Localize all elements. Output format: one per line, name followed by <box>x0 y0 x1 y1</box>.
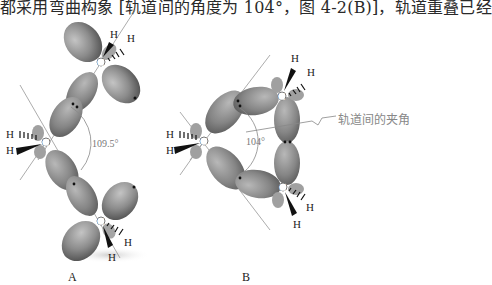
h-label: H <box>124 236 132 248</box>
carbon-label: C <box>200 135 207 147</box>
angle-label-a: 109.5° <box>92 138 119 149</box>
carbon-label: C <box>97 56 104 68</box>
h-label: H <box>291 52 299 64</box>
h-label: H <box>293 218 301 230</box>
panel-b-label: B <box>242 270 250 284</box>
carbon-label: C <box>42 136 49 148</box>
carbon-label: C <box>97 215 104 227</box>
orbital-angle-annotation: 轨道间的夹角 <box>338 112 410 127</box>
panel-b-molecule: 104° 轨道间的夹角 H H H H <box>166 52 410 230</box>
carbon-label: C <box>279 181 286 193</box>
h-label: H <box>127 32 135 44</box>
h-label: H <box>108 251 116 263</box>
h-label: H <box>166 144 174 156</box>
h-label: H <box>307 66 315 78</box>
h-label: H <box>306 201 314 213</box>
h-label: H <box>6 128 14 140</box>
h-label: H <box>6 144 14 156</box>
carbon-label: C <box>278 90 285 102</box>
h-label: H <box>166 128 174 140</box>
angle-label-b: 104° <box>246 136 265 147</box>
panel-a-label: A <box>68 270 77 284</box>
panel-a-molecule: 109.5° H H H H <box>6 10 150 269</box>
h-label: H <box>110 28 118 40</box>
